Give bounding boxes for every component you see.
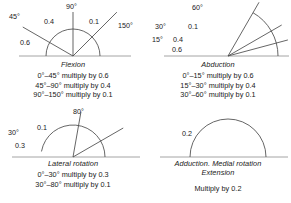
flexion-factor-label-1: 0.4 xyxy=(44,17,54,26)
abduction-rule-2: 15°–30° multiply by 0.4 xyxy=(145,81,291,91)
lateral-rotation-angle-label-80: 80° xyxy=(73,107,84,116)
lateral-rotation-ray-80 xyxy=(73,112,81,157)
flexion-rules: 0°–45° multiply by 0.6 45°–90° multiply … xyxy=(0,71,146,100)
adduction-caption: Adduction. Medial rotation Extension Mul… xyxy=(145,159,291,194)
flexion-caption: Flexion 0°–45° multiply by 0.6 45°–90° m… xyxy=(0,60,146,100)
flexion-diagram: 45°90°150°0.60.40.1 xyxy=(0,0,146,62)
lateral-rotation-factor-label-0: 0.3 xyxy=(15,141,25,150)
adduction-arc xyxy=(190,119,266,157)
abduction-ray-60 xyxy=(228,2,259,56)
panel-abduction: 15°30°60°0.60.40.1 Abduction 0°–15° mult… xyxy=(145,0,291,102)
adduction-diagram: 0.2 xyxy=(145,102,291,164)
abduction-angle-label-60: 60° xyxy=(192,3,203,12)
panel-lateral-rotation: 30°80°0.30.1 Lateral rotation 0°–30° mul… xyxy=(0,102,146,203)
abduction-ray-15 xyxy=(228,40,288,56)
flexion-factor-label-2: 0.1 xyxy=(89,17,99,26)
flexion-title: Flexion xyxy=(0,60,146,69)
adduction-title-line2: Extension xyxy=(145,168,291,177)
flexion-angle-label-45: 45° xyxy=(9,12,20,21)
abduction-caption: Abduction 0°–15° multiply by 0.6 15°–30°… xyxy=(145,60,291,100)
flexion-factor-label-0: 0.6 xyxy=(20,38,30,47)
abduction-svg: 15°30°60°0.60.40.1 xyxy=(145,0,291,62)
flexion-svg: 45°90°150°0.60.40.1 xyxy=(0,0,146,62)
lateral-rotation-diagram: 30°80°0.30.1 xyxy=(0,102,146,164)
adduction-title: Adduction. Medial rotation xyxy=(145,159,291,168)
adduction-rules: Multiply by 0.2 xyxy=(145,184,291,194)
panel-flexion: 45°90°150°0.60.40.1 Flexion 0°–45° multi… xyxy=(0,0,146,102)
adduction-rule-1: Multiply by 0.2 xyxy=(145,184,291,194)
lateral-rotation-factor-label-1: 0.1 xyxy=(37,123,47,132)
adduction-factor-label-0: 0.2 xyxy=(182,129,192,138)
lateral-rotation-caption: Lateral rotation 0°–30° multiply by 0.3 … xyxy=(0,159,146,189)
flexion-angle-label-150: 150° xyxy=(118,21,133,30)
abduction-angle-label-15: 15° xyxy=(152,35,163,44)
lateral-rotation-rule-2: 30°–80° multiply by 0.1 xyxy=(0,180,146,190)
abduction-factor-label-0: 0.6 xyxy=(172,45,182,54)
abduction-rule-3: 30°–60° multiply by 0.1 xyxy=(145,90,291,100)
flexion-rule-3: 90°–150° multiply by 0.1 xyxy=(0,90,146,100)
abduction-factor-label-2: 0.1 xyxy=(188,22,198,31)
lateral-rotation-rules: 0°–30° multiply by 0.3 30°–80° multiply … xyxy=(0,170,146,189)
lateral-rotation-svg: 30°80°0.30.1 xyxy=(0,102,146,164)
lateral-rotation-ray-30 xyxy=(73,128,123,157)
abduction-ray-30 xyxy=(228,25,282,56)
lateral-rotation-title: Lateral rotation xyxy=(0,159,146,168)
flexion-angle-label-90: 90° xyxy=(66,2,77,11)
lateral-rotation-arc xyxy=(41,125,105,157)
lateral-rotation-rule-1: 0°–30° multiply by 0.3 xyxy=(0,170,146,180)
lateral-rotation-angle-label-30: 30° xyxy=(8,128,19,137)
flexion-rule-1: 0°–45° multiply by 0.6 xyxy=(0,71,146,81)
abduction-rule-1: 0°–15° multiply by 0.6 xyxy=(145,71,291,81)
adduction-svg: 0.2 xyxy=(145,102,291,164)
flexion-ray-150 xyxy=(23,27,73,56)
abduction-factor-label-1: 0.4 xyxy=(173,35,183,44)
abduction-title: Abduction xyxy=(145,60,291,69)
panel-adduction: 0.2 Adduction. Medial rotation Extension… xyxy=(145,102,291,203)
abduction-rules: 0°–15° multiply by 0.6 15°–30° multiply … xyxy=(145,71,291,100)
figure-sheet: 45°90°150°0.60.40.1 Flexion 0°–45° multi… xyxy=(0,0,291,203)
abduction-angle-label-30: 30° xyxy=(155,22,166,31)
abduction-diagram: 15°30°60°0.60.40.1 xyxy=(145,0,291,62)
flexion-rule-2: 45°–90° multiply by 0.4 xyxy=(0,81,146,91)
